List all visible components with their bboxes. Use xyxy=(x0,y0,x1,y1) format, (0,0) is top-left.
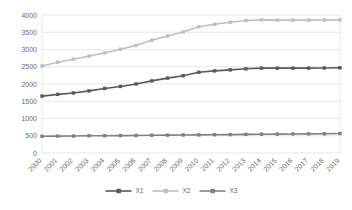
data-point-marker xyxy=(103,134,106,137)
data-point-marker xyxy=(134,134,137,137)
y-tick-label: 1500 xyxy=(21,98,37,105)
data-point-marker xyxy=(40,135,43,138)
data-point-marker xyxy=(103,51,106,54)
y-tick-label: 2500 xyxy=(21,63,37,70)
data-point-marker xyxy=(276,132,279,135)
chart-container: 05001000150020002500300035004000 2000200… xyxy=(0,0,352,210)
data-point-marker xyxy=(87,54,90,57)
data-point-marker xyxy=(150,134,153,137)
data-point-marker xyxy=(291,66,294,69)
data-point-marker xyxy=(323,132,326,135)
data-point-marker xyxy=(323,66,326,69)
y-tick-label: 500 xyxy=(25,132,37,139)
legend-swatch-marker xyxy=(164,189,168,193)
legend-label: X3 xyxy=(230,187,238,194)
legend-swatch-marker xyxy=(117,189,121,193)
data-point-marker xyxy=(150,79,153,82)
data-point-marker xyxy=(56,134,59,137)
line-chart: 05001000150020002500300035004000 2000200… xyxy=(0,0,352,210)
legend-swatch-marker xyxy=(211,189,215,193)
data-point-marker xyxy=(338,66,341,69)
data-point-marker xyxy=(276,18,279,21)
y-tick-label: 3500 xyxy=(21,29,37,36)
data-point-marker xyxy=(307,18,310,21)
data-point-marker xyxy=(260,133,263,136)
data-point-marker xyxy=(87,89,90,92)
y-tick-label: 4000 xyxy=(21,12,37,19)
data-point-marker xyxy=(229,133,232,136)
y-tick-label: 1000 xyxy=(21,115,37,122)
data-point-marker xyxy=(213,133,216,136)
data-point-marker xyxy=(119,134,122,137)
data-point-marker xyxy=(229,68,232,71)
data-point-marker xyxy=(338,132,341,135)
data-point-marker xyxy=(307,66,310,69)
data-point-marker xyxy=(338,18,341,21)
data-point-marker xyxy=(72,91,75,94)
data-point-marker xyxy=(166,76,169,79)
data-point-marker xyxy=(260,18,263,21)
data-point-marker xyxy=(134,82,137,85)
data-point-marker xyxy=(197,71,200,74)
data-point-marker xyxy=(119,85,122,88)
data-point-marker xyxy=(72,57,75,60)
data-point-marker xyxy=(72,134,75,137)
data-point-marker xyxy=(291,18,294,21)
data-point-marker xyxy=(197,133,200,136)
data-point-marker xyxy=(276,66,279,69)
legend-label: X2 xyxy=(183,187,191,194)
data-point-marker xyxy=(244,67,247,70)
data-point-marker xyxy=(56,61,59,64)
data-point-marker xyxy=(181,30,184,33)
data-point-marker xyxy=(166,34,169,37)
data-point-marker xyxy=(213,23,216,26)
data-point-marker xyxy=(40,64,43,67)
data-point-marker xyxy=(291,132,294,135)
data-point-marker xyxy=(56,93,59,96)
data-point-marker xyxy=(307,132,310,135)
data-point-marker xyxy=(229,21,232,24)
data-point-marker xyxy=(244,133,247,136)
data-point-marker xyxy=(323,18,326,21)
data-point-marker xyxy=(134,44,137,47)
data-point-marker xyxy=(244,19,247,22)
data-point-marker xyxy=(87,134,90,137)
legend-label: X1 xyxy=(136,187,144,194)
y-tick-label: 0 xyxy=(33,150,37,157)
y-tick-label: 2000 xyxy=(21,81,37,88)
chart-background xyxy=(0,0,352,210)
data-point-marker xyxy=(40,94,43,97)
data-point-marker xyxy=(213,69,216,72)
y-tick-label: 3000 xyxy=(21,46,37,53)
data-point-marker xyxy=(103,87,106,90)
data-point-marker xyxy=(260,66,263,69)
data-point-marker xyxy=(181,133,184,136)
data-point-marker xyxy=(150,38,153,41)
data-point-marker xyxy=(166,133,169,136)
data-point-marker xyxy=(119,47,122,50)
data-point-marker xyxy=(197,25,200,28)
data-point-marker xyxy=(181,74,184,77)
